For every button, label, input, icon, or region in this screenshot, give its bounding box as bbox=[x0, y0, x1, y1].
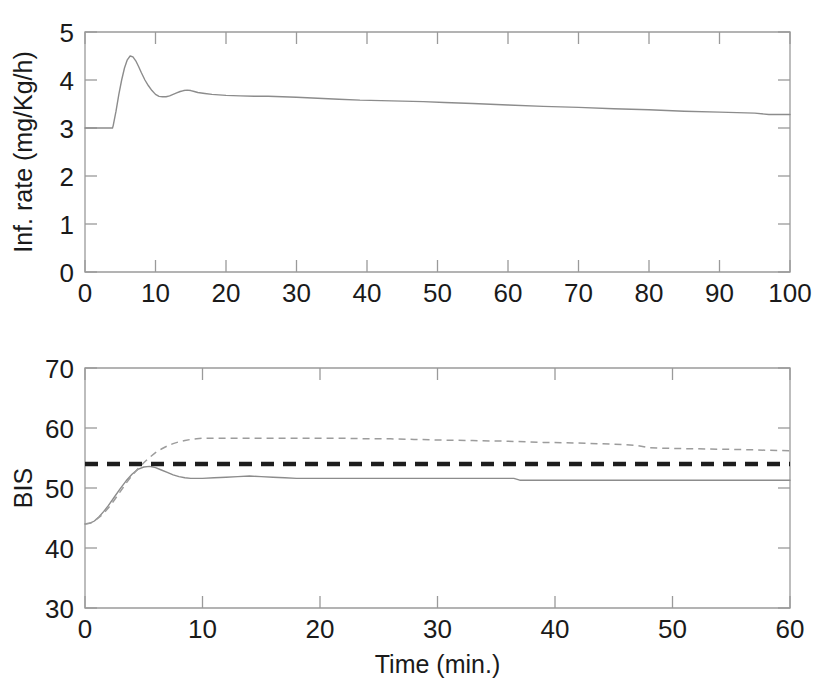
infusion-rate-svg: 5 4 3 2 1 0 0 10 20 30 40 50 60 70 80 90… bbox=[0, 0, 820, 341]
xtick-label: 60 bbox=[494, 278, 523, 308]
xtick-label: 50 bbox=[423, 278, 452, 308]
xtick-label: 30 bbox=[282, 278, 311, 308]
infusion-rate-panel: 5 4 3 2 1 0 0 10 20 30 40 50 60 70 80 90… bbox=[0, 0, 820, 341]
xtick-label: 20 bbox=[212, 278, 241, 308]
xtick-label: 60 bbox=[776, 614, 805, 644]
xtick-label: 30 bbox=[423, 614, 452, 644]
ytick-label: 4 bbox=[60, 66, 74, 96]
ytick-label: 40 bbox=[45, 534, 74, 564]
ytick-label: 5 bbox=[60, 18, 74, 48]
bis-y-ticklabels: 70 60 50 40 30 bbox=[45, 354, 74, 624]
bis-solid-line bbox=[85, 466, 790, 524]
ytick-label: 1 bbox=[60, 210, 74, 240]
infusion-rate-line bbox=[85, 56, 790, 128]
ytick-label: 50 bbox=[45, 474, 74, 504]
infusion-rate-axis-box bbox=[85, 32, 790, 272]
infusion-rate-y-ticks bbox=[85, 32, 790, 272]
ytick-label: 3 bbox=[60, 114, 74, 144]
infusion-rate-x-ticks bbox=[85, 32, 790, 272]
xtick-label: 10 bbox=[188, 614, 217, 644]
ytick-label: 30 bbox=[45, 594, 74, 624]
figure-container: 5 4 3 2 1 0 0 10 20 30 40 50 60 70 80 90… bbox=[0, 0, 820, 682]
infusion-rate-y-axis-title: Inf. rate (mg/Kg/h) bbox=[9, 51, 37, 252]
xtick-label: 90 bbox=[705, 278, 734, 308]
bis-svg: 70 60 50 40 30 0 10 20 30 40 50 60 BIS T… bbox=[0, 341, 820, 682]
ytick-label: 60 bbox=[45, 414, 74, 444]
ytick-label: 0 bbox=[60, 258, 74, 288]
xtick-label: 40 bbox=[541, 614, 570, 644]
bis-y-ticks bbox=[85, 368, 790, 608]
bis-x-axis-title: Time (min.) bbox=[375, 650, 500, 678]
xtick-label: 50 bbox=[658, 614, 687, 644]
xtick-label: 80 bbox=[635, 278, 664, 308]
xtick-label: 40 bbox=[353, 278, 382, 308]
bis-panel: 70 60 50 40 30 0 10 20 30 40 50 60 BIS T… bbox=[0, 341, 820, 682]
xtick-label: 100 bbox=[768, 278, 811, 308]
xtick-label: 0 bbox=[78, 278, 92, 308]
bis-axis-box bbox=[85, 368, 790, 608]
bis-x-ticks bbox=[85, 368, 790, 608]
xtick-label: 20 bbox=[306, 614, 335, 644]
bis-x-ticklabels: 0 10 20 30 40 50 60 bbox=[78, 614, 805, 644]
xtick-label: 70 bbox=[564, 278, 593, 308]
xtick-label: 0 bbox=[78, 614, 92, 644]
bis-dashed-line bbox=[85, 438, 790, 524]
xtick-label: 10 bbox=[141, 278, 170, 308]
infusion-rate-x-ticklabels: 0 10 20 30 40 50 60 70 80 90 100 bbox=[78, 278, 812, 308]
infusion-rate-y-ticklabels: 5 4 3 2 1 0 bbox=[60, 18, 74, 288]
ytick-label: 70 bbox=[45, 354, 74, 384]
bis-y-axis-title: BIS bbox=[9, 468, 37, 508]
ytick-label: 2 bbox=[60, 162, 74, 192]
